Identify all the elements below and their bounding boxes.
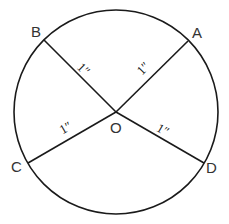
diagram-canvas: B A C D O 1″ 1″ 1″ 1″ — [0, 0, 229, 224]
radius-od — [116, 112, 204, 163]
radius-oc — [28, 112, 116, 163]
circle-diagram: B A C D O 1″ 1″ 1″ 1″ — [0, 0, 229, 224]
point-label-b: B — [31, 23, 41, 40]
length-label-oc: 1″ — [57, 118, 75, 137]
point-label-c: C — [11, 158, 22, 175]
length-label-ob: 1″ — [74, 60, 93, 79]
radius-ob — [44, 40, 116, 112]
center-label-o: O — [110, 119, 122, 136]
point-label-d: D — [206, 159, 217, 176]
length-label-oa: 1″ — [134, 59, 153, 78]
radius-oa — [116, 41, 188, 112]
point-label-a: A — [192, 24, 202, 41]
